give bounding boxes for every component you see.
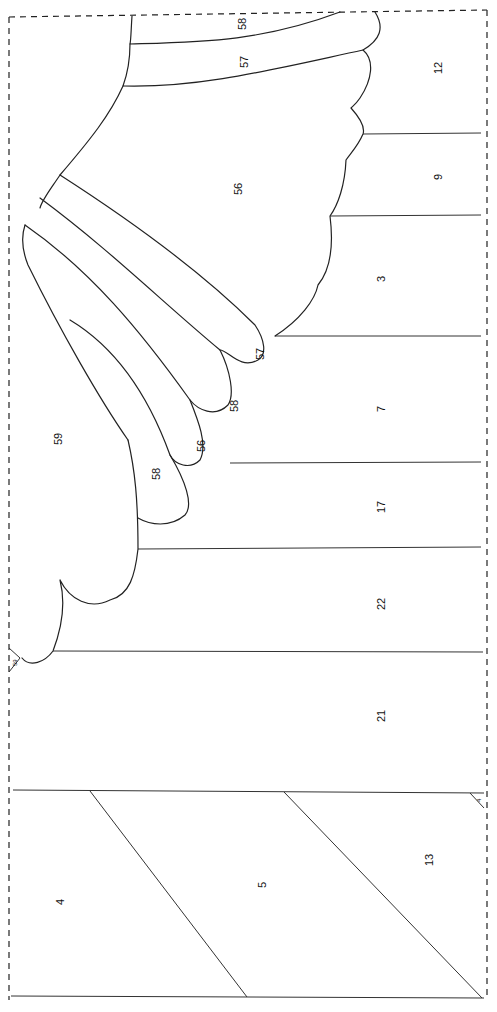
label-5: 5 [256, 882, 268, 888]
label-4-small: 4 [476, 798, 482, 802]
bottom-panel-lines [11, 790, 484, 998]
label-13: 13 [423, 854, 435, 866]
label-9: 9 [432, 174, 444, 180]
label-59-small: 59 [12, 659, 18, 666]
label-7: 7 [375, 406, 387, 412]
label-56-big: 56 [232, 183, 244, 195]
label-57-feather: 57 [254, 348, 266, 360]
label-3: 3 [375, 276, 387, 282]
feathers [23, 175, 264, 524]
region-labels: 58 57 56 12 9 3 57 58 56 58 59 59 7 17 2… [12, 18, 482, 905]
label-21: 21 [375, 710, 387, 722]
top-bands [123, 12, 380, 86]
label-12: 12 [432, 62, 444, 74]
label-17: 17 [375, 501, 387, 513]
block-dividers [53, 133, 483, 652]
label-4: 4 [54, 899, 66, 905]
label-57-top: 57 [238, 56, 250, 68]
label-22: 22 [375, 598, 387, 610]
label-59: 59 [52, 433, 64, 445]
region-59-outline [9, 440, 138, 672]
dashed-border [9, 10, 487, 1000]
label-56-feather: 56 [195, 440, 207, 452]
pattern-diagram: 58 57 56 12 9 3 57 58 56 58 59 59 7 17 2… [0, 0, 497, 1012]
label-58-top: 58 [236, 18, 248, 30]
label-58-feather: 58 [228, 400, 240, 412]
label-58-feather-2: 58 [150, 468, 162, 480]
wing-outline [40, 50, 371, 336]
